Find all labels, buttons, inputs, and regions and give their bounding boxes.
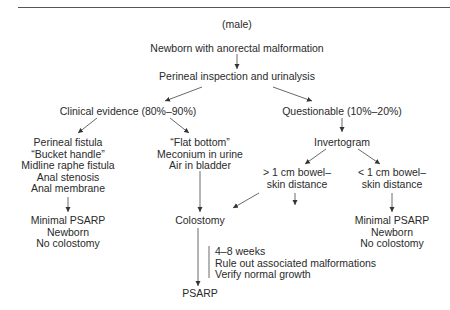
finding: “Flat bottom”	[157, 137, 243, 149]
note-line: Verify normal growth	[215, 269, 376, 281]
finding: Midline raphe fistula	[21, 160, 114, 172]
node-invertogram: Invertogram	[314, 137, 370, 149]
node-other-findings: “Flat bottom” Meconium in urine Air in b…	[157, 137, 243, 172]
finding: Air in bladder	[157, 160, 243, 172]
node-line: Minimal PSARP	[31, 215, 106, 227]
gender-label: (male)	[222, 19, 252, 31]
node-line: No colostomy	[31, 238, 106, 250]
node-colostomy: Colostomy	[175, 215, 225, 227]
node-questionable: Questionable (10%–20%)	[282, 106, 402, 118]
note-line: 4–8 weeks	[215, 246, 376, 258]
node-perineal-findings: Perineal fistula “Bucket handle” Midline…	[21, 137, 114, 195]
node-line: > 1 cm bowel–	[263, 167, 331, 179]
finding: Anal membrane	[21, 183, 114, 195]
finding: Perineal fistula	[21, 137, 114, 149]
node-minimal-psarp-right: Minimal PSARP Newborn No colostomy	[355, 215, 430, 250]
node-line: skin distance	[263, 179, 331, 191]
node-inspection: Perineal inspection and urinalysis	[159, 71, 315, 83]
node-start: Newborn with anorectal malformation	[150, 43, 323, 55]
node-line: skin distance	[358, 179, 426, 191]
node-clinical-evidence: Clinical evidence (80%–90%)	[60, 106, 197, 118]
interval-notes: 4–8 weeks Rule out associated malformati…	[215, 246, 376, 281]
node-line: < 1 cm bowel–	[358, 167, 426, 179]
node-line: Minimal PSARP	[355, 215, 430, 227]
node-minimal-psarp-left: Minimal PSARP Newborn No colostomy	[31, 215, 106, 250]
node-psarp: PSARP	[182, 288, 218, 300]
node-lt-1cm: < 1 cm bowel– skin distance	[358, 167, 426, 190]
node-gt-1cm: > 1 cm bowel– skin distance	[263, 167, 331, 190]
